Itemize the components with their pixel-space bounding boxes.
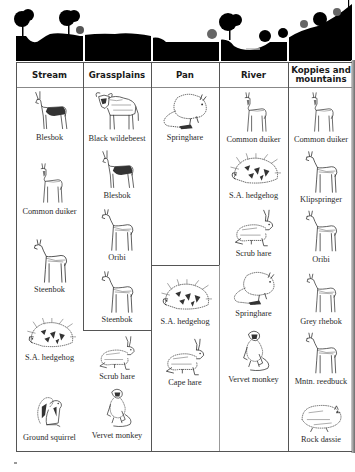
small-antelope-icon <box>94 270 140 314</box>
animal-label: Black wildebeest <box>89 134 146 143</box>
table-bottom-border <box>16 451 352 452</box>
small-antelope-icon <box>301 150 341 194</box>
animal-label: S.A. hedgehog <box>25 353 74 362</box>
animal-cell: Springhare <box>219 270 288 318</box>
animal-label: Common duiker <box>22 207 76 216</box>
animal-label: Grey rhebok <box>300 317 342 326</box>
tree-icon <box>259 30 271 42</box>
hare-icon <box>161 337 209 377</box>
small-antelope-icon <box>97 208 137 252</box>
header-bottom-border <box>16 87 352 88</box>
hare-icon <box>95 335 139 371</box>
animal-label: Springhare <box>235 309 271 318</box>
header-stream: Stream <box>16 63 83 87</box>
animal-cell: Blesbok <box>83 150 151 200</box>
animal-label: Oribi <box>108 253 126 262</box>
duiker-icon <box>305 90 337 134</box>
monkey-icon <box>235 328 273 374</box>
animal-cell: Ground squirrel <box>16 388 83 442</box>
animal-label: Klipspringer <box>300 195 342 204</box>
squirrel-icon <box>32 388 68 432</box>
dassie-icon <box>297 400 345 434</box>
animal-label: Scrub hare <box>99 372 135 381</box>
animal-cell: Scrub hare <box>83 335 151 381</box>
hedgehog-icon <box>227 152 281 190</box>
animal-cell: S.A. hedgehog <box>16 318 83 362</box>
animal-label: Ground squirrel <box>23 433 76 442</box>
hare-icon <box>230 208 278 248</box>
animal-cell: Oribi <box>288 208 354 264</box>
hedgehog-icon <box>24 318 76 352</box>
animal-cell: Black wildebeest <box>83 89 151 143</box>
animal-label: Vervet monkey <box>228 375 278 384</box>
animal-cell: Klipspringer <box>288 150 354 204</box>
header-river: River <box>219 63 288 87</box>
monkey-icon <box>99 386 135 430</box>
small-antelope-icon <box>302 330 340 376</box>
hedgehog-icon <box>158 278 212 316</box>
animal-cell: S.A. hedgehog <box>151 278 219 326</box>
animal-cell: Oribi <box>83 208 151 262</box>
animal-label: Steenbok <box>34 285 65 294</box>
animal-label: Common duiker <box>294 135 348 144</box>
antelope-icon <box>29 90 71 132</box>
animal-cell: Vervet monkey <box>219 328 288 384</box>
animal-label: Oribi <box>312 255 330 264</box>
animal-label: Vervet monkey <box>92 431 142 440</box>
antelope-icon <box>96 150 138 190</box>
animal-cell: Blesbok <box>16 90 83 142</box>
grassplains-step-border <box>83 330 151 331</box>
animal-label: Scrub hare <box>236 249 272 258</box>
animal-cell: Rock dassie <box>288 400 354 444</box>
animal-label: Common duiker <box>226 135 280 144</box>
animal-cell: Vervet monkey <box>83 386 151 440</box>
habitat-landscape-silhouette <box>0 0 355 64</box>
animal-cell: Scrub hare <box>219 208 288 258</box>
header-koppies-line2: mountains <box>295 75 346 84</box>
springhare-icon <box>158 92 212 132</box>
tree-icon <box>313 12 327 26</box>
animal-cell: Grey rhebok <box>288 270 354 326</box>
animal-label: Blesbok <box>36 133 63 142</box>
pan-step-border <box>151 265 219 266</box>
animal-cell: Steenbok <box>16 238 83 294</box>
animal-cell: S.A. hedgehog <box>219 152 288 200</box>
animal-cell: Common duiker <box>219 90 288 144</box>
page-mark <box>14 462 17 464</box>
small-antelope-icon <box>303 270 339 316</box>
wildebeest-icon <box>93 89 141 133</box>
animal-label: Steenbok <box>102 315 133 324</box>
animal-cell: Common duiker <box>288 90 354 144</box>
animal-cell: Steenbok <box>83 270 151 324</box>
animal-label: Mntn. reedbuck <box>295 377 348 386</box>
small-antelope-icon <box>28 238 72 284</box>
animal-label: S.A. hedgehog <box>160 317 209 326</box>
duiker-icon <box>238 90 270 134</box>
header-pan: Pan <box>151 63 219 87</box>
animal-cell: Common duiker <box>16 160 83 216</box>
animal-cell: Cape hare <box>151 337 219 387</box>
springhare-icon <box>229 270 279 308</box>
animal-label: Rock dassie <box>301 435 341 444</box>
animal-cell: Mntn. reedbuck <box>288 330 354 386</box>
duiker-icon <box>34 160 66 206</box>
animal-label: Cape hare <box>168 378 201 387</box>
animal-label: S.A. hedgehog <box>229 191 278 200</box>
animal-label: Springhare <box>167 133 203 142</box>
small-antelope-icon <box>302 208 340 254</box>
header-koppies-and-mountains: Koppies and mountains <box>288 63 354 87</box>
header-grassplains: Grassplains <box>83 63 151 87</box>
animal-label: Blesbok <box>103 191 130 200</box>
animal-cell: Springhare <box>151 92 219 142</box>
